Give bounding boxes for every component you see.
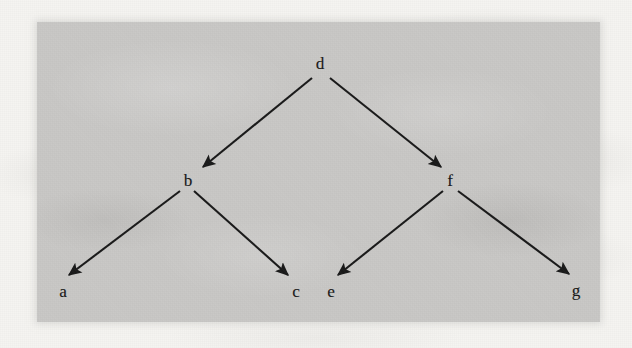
tree-node-e: e xyxy=(327,283,335,300)
tree-node-d: d xyxy=(316,55,325,72)
tree-node-f: f xyxy=(447,172,453,189)
tree-node-a: a xyxy=(59,283,67,300)
figure-page: dbfaceg xyxy=(0,0,632,348)
tree-edge-f-to-g xyxy=(458,191,569,274)
tree-edge-f-to-e xyxy=(338,191,443,275)
tree-edges-layer xyxy=(0,0,632,348)
tree-node-b: b xyxy=(184,172,193,189)
tree-node-g: g xyxy=(572,282,581,299)
tree-node-c: c xyxy=(292,283,300,300)
tree-edge-d-to-f xyxy=(330,78,441,167)
tree-edge-b-to-c xyxy=(194,191,288,275)
tree-edge-d-to-b xyxy=(203,78,312,167)
tree-edge-b-to-a xyxy=(69,191,180,275)
